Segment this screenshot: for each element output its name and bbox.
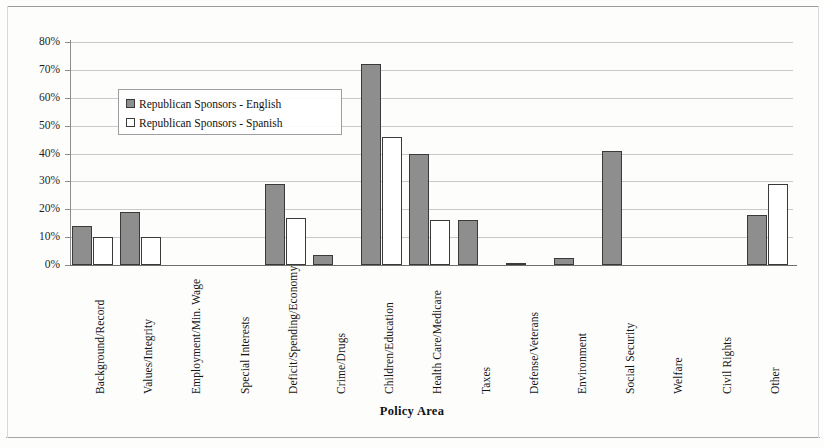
x-axis-category-label: Other: [769, 367, 781, 394]
bar-group: [263, 42, 311, 265]
bar-group: [504, 42, 552, 265]
bar-chart: Volume of Ads 0%10%20%30%40%50%60%70%80%…: [0, 0, 824, 448]
x-axis-category-label: Civil Rights: [721, 337, 733, 394]
bar-english: [313, 255, 333, 265]
bar-group: [118, 42, 166, 265]
legend-item-english: Republican Sponsors - English: [126, 94, 335, 113]
bar-spanish: [286, 218, 306, 265]
x-axis-category-label: Defense/Veterans: [528, 312, 540, 394]
bar-english: [72, 226, 92, 265]
x-axis-category-label: Employment/Min. Wage: [190, 279, 202, 394]
legend-label-english: Republican Sponsors - English: [139, 98, 281, 110]
chart-legend: Republican Sponsors - English Republican…: [118, 89, 342, 135]
bar-spanish: [93, 237, 113, 265]
legend-swatch-english-icon: [126, 99, 135, 108]
bar-group: [552, 42, 600, 265]
bar-group: [648, 42, 696, 265]
bar-english: [458, 220, 478, 265]
x-axis-category-label: Welfare: [672, 357, 684, 394]
legend-item-spanish: Republican Sponsors - Spanish: [126, 113, 335, 132]
bar-group: [697, 42, 745, 265]
x-axis-category-labels: Background/RecordValues/IntegrityEmploym…: [70, 268, 793, 398]
x-axis-category-label: Children/Education: [383, 302, 395, 394]
bar-group: [359, 42, 407, 265]
x-axis-title: Policy Area: [0, 404, 824, 419]
bar-spanish: [382, 137, 402, 265]
bar-group: [166, 42, 214, 265]
bar-group: [407, 42, 455, 265]
y-axis-tick-label: 30%: [2, 175, 60, 187]
x-axis-category-label: Deficit/Spending/Economy: [287, 266, 299, 394]
bar-english: [120, 212, 140, 265]
y-axis-tick-label: 80%: [2, 36, 60, 48]
legend-label-spanish: Republican Sponsors - Spanish: [139, 117, 282, 129]
bar-spanish: [430, 220, 450, 265]
x-axis-category-label: Special Interests: [239, 317, 251, 394]
bar-english: [602, 151, 622, 265]
bar-groups: [70, 42, 793, 265]
x-axis-category-label: Health Care/Medicare: [431, 290, 443, 394]
bar-spanish: [768, 184, 788, 265]
bar-group: [745, 42, 793, 265]
y-axis-tick-label: 60%: [2, 92, 60, 104]
bar-english: [265, 184, 285, 265]
y-axis-tick-label: 0%: [2, 259, 60, 271]
y-axis-tick-label: 10%: [2, 231, 60, 243]
x-axis-category-label: Values/Integrity: [142, 319, 154, 394]
bar-group: [215, 42, 263, 265]
x-axis-category-label: Background/Record: [94, 300, 106, 394]
bar-spanish: [141, 237, 161, 265]
x-axis-category-label: Taxes: [480, 367, 492, 394]
bar-group: [311, 42, 359, 265]
bar-english: [409, 154, 429, 266]
y-axis-tick-label: 70%: [2, 64, 60, 76]
bar-group: [456, 42, 504, 265]
y-axis-tick-label: 50%: [2, 120, 60, 132]
bar-english: [747, 215, 767, 265]
y-axis-tick-label: 20%: [2, 203, 60, 215]
x-axis-category-label: Environment: [576, 333, 588, 394]
bar-english: [506, 263, 526, 265]
legend-swatch-spanish-icon: [126, 118, 135, 127]
x-axis-category-label: Social Security: [624, 323, 636, 394]
bar-english: [554, 258, 574, 265]
y-axis-tick: [65, 265, 70, 266]
y-axis-tick-label: 40%: [2, 148, 60, 160]
bar-group: [70, 42, 118, 265]
bar-english: [361, 64, 381, 265]
bar-group: [600, 42, 648, 265]
x-axis-category-label: Crime/Drugs: [335, 333, 347, 394]
chart-page: Volume of Ads 0%10%20%30%40%50%60%70%80%…: [0, 0, 824, 448]
